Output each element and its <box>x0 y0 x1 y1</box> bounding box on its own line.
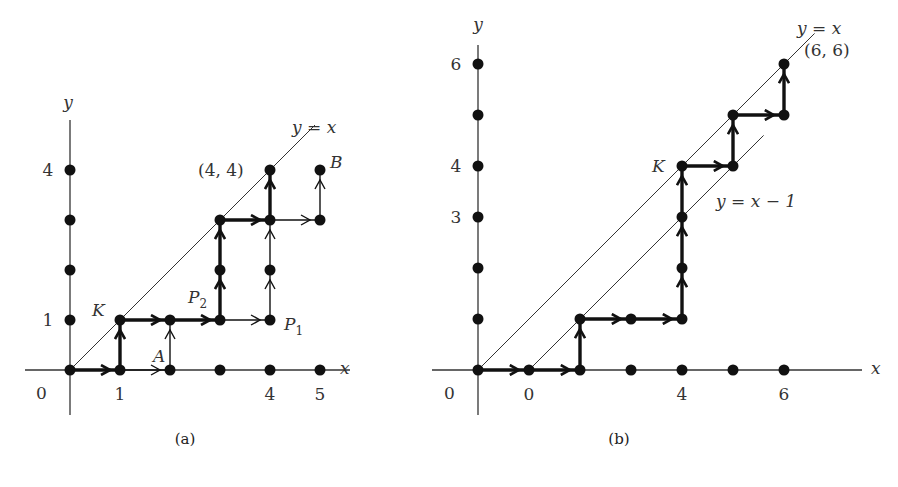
y-axis-label: y <box>472 14 483 34</box>
lattice-point <box>265 215 276 226</box>
lattice-point <box>165 315 176 326</box>
lattice-point <box>677 263 688 274</box>
figure-b: xy0y = xy = x − 1046346K(6, 6) <box>432 14 881 415</box>
lattice-point <box>265 365 276 376</box>
point-label-a: A <box>151 346 165 366</box>
lattice-point <box>779 110 790 121</box>
caption-b: (b) <box>608 430 629 448</box>
lattice-point <box>677 161 688 172</box>
diagonal-line <box>70 125 315 370</box>
point-label-p1: P1 <box>283 314 303 338</box>
lattice-point <box>215 365 226 376</box>
lattice-point <box>575 365 586 376</box>
lattice-point <box>65 215 76 226</box>
lattice-point <box>473 110 484 121</box>
point-label-44: (4, 4) <box>198 160 244 180</box>
x-tick-label: 1 <box>115 384 126 404</box>
lattice-point <box>473 161 484 172</box>
lattice-point <box>677 314 688 325</box>
lattice-point <box>115 315 126 326</box>
point-label-66: (6, 6) <box>804 40 850 60</box>
lattice-point <box>115 365 126 376</box>
lattice-point <box>215 315 226 326</box>
lattice-point <box>524 365 535 376</box>
y-axis-label: y <box>62 92 73 112</box>
lattice-point <box>575 314 586 325</box>
diagonal-line-label: y = x − 1 <box>715 191 796 211</box>
lattice-point <box>626 365 637 376</box>
lattice-point <box>315 165 326 176</box>
x-tick-label: 4 <box>265 384 276 404</box>
origin-label: 0 <box>444 383 455 403</box>
y-tick-label: 3 <box>451 207 462 227</box>
point-label-k: K <box>91 300 106 320</box>
lattice-point <box>65 365 76 376</box>
lattice-point <box>165 365 176 376</box>
x-tick-label: 4 <box>677 384 688 404</box>
lattice-point <box>728 365 739 376</box>
lattice-point <box>728 110 739 121</box>
lattice-point <box>677 365 688 376</box>
x-axis-label: x <box>340 358 350 378</box>
lattice-path-figure: xy0y = x14514KAP2P1B(4, 4) xy0y = xy = x… <box>0 0 898 487</box>
lattice-point <box>473 212 484 223</box>
lattice-point <box>265 165 276 176</box>
caption-a: (a) <box>175 430 196 448</box>
lattice-point <box>215 215 226 226</box>
lattice-point <box>779 59 790 70</box>
lattice-point <box>473 314 484 325</box>
lattice-point <box>626 314 637 325</box>
lattice-point <box>65 265 76 276</box>
lattice-point <box>677 212 688 223</box>
lattice-point <box>65 165 76 176</box>
point-label-b: B <box>329 152 343 172</box>
x-tick-label: 5 <box>315 384 326 404</box>
lattice-point <box>215 265 226 276</box>
diagonal-line-label: y = x <box>291 117 337 137</box>
lattice-point <box>728 161 739 172</box>
lattice-point <box>473 263 484 274</box>
figure-a: xy0y = x14514KAP2P1B(4, 4) <box>25 92 350 415</box>
point-label-k: K <box>651 156 666 176</box>
diagonal-line <box>529 135 764 370</box>
lattice-point <box>265 315 276 326</box>
diagonal-line-label: y = x <box>796 18 842 38</box>
lattice-point <box>473 59 484 70</box>
lattice-point <box>65 315 76 326</box>
x-axis-label: x <box>871 358 881 378</box>
point-label-p2: P2 <box>187 287 207 311</box>
lattice-point <box>779 365 790 376</box>
x-tick-label: 6 <box>779 384 790 404</box>
y-tick-label: 4 <box>43 160 54 180</box>
lattice-point <box>265 265 276 276</box>
lattice-point <box>315 365 326 376</box>
lattice-point <box>315 215 326 226</box>
lattice-point <box>473 365 484 376</box>
origin-label: 0 <box>36 383 47 403</box>
y-tick-label: 6 <box>451 54 462 74</box>
y-tick-label: 1 <box>43 310 54 330</box>
y-tick-label: 4 <box>451 156 462 176</box>
x-tick-label: 0 <box>524 384 535 404</box>
